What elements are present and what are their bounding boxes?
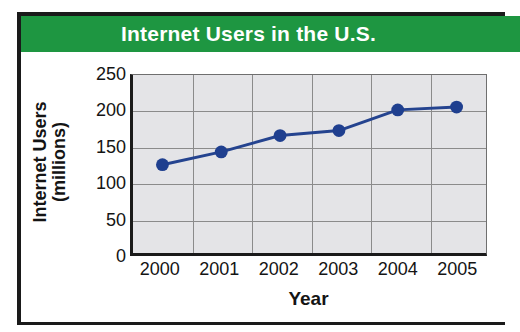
- x-tick-label: 2004: [378, 259, 418, 280]
- series-line: [162, 107, 456, 165]
- y-tick-label: 100: [78, 173, 126, 194]
- data-point-marker: [332, 124, 345, 137]
- x-tick-label: 2002: [259, 259, 299, 280]
- data-point-marker: [450, 101, 463, 114]
- y-axis-title-line-1: Internet Users: [32, 101, 51, 222]
- y-tick-label: 150: [78, 136, 126, 157]
- x-tick-label: 2000: [140, 259, 180, 280]
- y-tick-label: 0: [78, 246, 126, 267]
- chart-title: Internet Users in the U.S.: [121, 22, 376, 46]
- y-tick-label: 250: [78, 64, 126, 85]
- data-point-marker: [391, 104, 404, 117]
- x-tick-label: 2005: [437, 259, 477, 280]
- y-tick-label: 200: [78, 100, 126, 121]
- y-axis-title: Internet Users (millions): [22, 62, 80, 262]
- data-point-marker: [274, 129, 287, 142]
- y-axis-tick-labels: 250200150100500: [78, 0, 126, 332]
- plot-area: [130, 74, 487, 256]
- data-series-line: [133, 75, 486, 253]
- x-axis-title: Year: [130, 288, 487, 310]
- data-point-marker: [156, 158, 169, 171]
- y-axis-title-line-2: (millions): [51, 101, 70, 222]
- data-point-marker: [215, 146, 228, 159]
- chart-figure: Internet Users in the U.S. Internet User…: [0, 0, 520, 332]
- x-tick-label: 2001: [199, 259, 239, 280]
- x-tick-label: 2003: [318, 259, 358, 280]
- y-tick-label: 50: [78, 209, 126, 230]
